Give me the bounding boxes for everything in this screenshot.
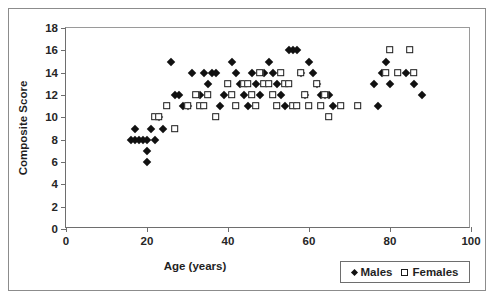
data-point-male bbox=[151, 135, 159, 143]
legend-entry-males: Males bbox=[352, 266, 393, 278]
data-point-female bbox=[172, 125, 179, 132]
x-tick-label: 0 bbox=[63, 235, 69, 247]
legend-label-females: Females bbox=[412, 266, 458, 278]
data-point-female bbox=[321, 91, 328, 98]
data-point-male bbox=[143, 158, 151, 166]
data-point-female bbox=[204, 91, 211, 98]
data-point-male bbox=[175, 91, 183, 99]
data-point-female bbox=[313, 80, 320, 87]
data-point-female bbox=[192, 91, 199, 98]
data-point-female bbox=[354, 102, 361, 109]
data-point-male bbox=[252, 80, 260, 88]
data-point-male bbox=[187, 68, 195, 76]
data-point-male bbox=[204, 80, 212, 88]
x-tick bbox=[471, 227, 472, 232]
x-tick-label: 60 bbox=[303, 235, 316, 247]
data-point-female bbox=[253, 102, 260, 109]
x-tick-label: 80 bbox=[384, 235, 397, 247]
x-tick bbox=[228, 227, 229, 232]
data-point-female bbox=[386, 47, 393, 54]
data-point-female bbox=[244, 80, 251, 87]
data-point-female bbox=[394, 69, 401, 76]
y-tick-label: 8 bbox=[52, 134, 58, 146]
data-point-male bbox=[159, 124, 167, 132]
data-point-male bbox=[276, 91, 284, 99]
x-tick bbox=[309, 227, 310, 232]
y-axis-title-label: Composite Score bbox=[17, 80, 29, 175]
data-point-male bbox=[370, 80, 378, 88]
data-point-male bbox=[410, 80, 418, 88]
data-point-female bbox=[382, 69, 389, 76]
data-point-male bbox=[386, 80, 394, 88]
data-point-female bbox=[155, 114, 162, 121]
data-point-female bbox=[297, 69, 304, 76]
data-point-male bbox=[268, 68, 276, 76]
data-point-female bbox=[338, 102, 345, 109]
data-point-female bbox=[317, 102, 324, 109]
data-point-female bbox=[293, 102, 300, 109]
y-tick-label: 18 bbox=[45, 22, 58, 34]
data-point-female bbox=[184, 102, 191, 109]
y-tick-label: 10 bbox=[45, 111, 58, 123]
data-point-female bbox=[257, 69, 264, 76]
data-point-male bbox=[264, 57, 272, 65]
scatter-plot-figure: Composite Score 024681012141618 02040608… bbox=[0, 0, 496, 301]
data-point-female bbox=[277, 69, 284, 76]
y-tick-label: 4 bbox=[52, 178, 58, 190]
data-point-female bbox=[269, 91, 276, 98]
data-point-female bbox=[410, 69, 417, 76]
data-point-male bbox=[272, 80, 280, 88]
data-point-female bbox=[301, 91, 308, 98]
x-tick-label: 100 bbox=[461, 235, 480, 247]
data-point-male bbox=[244, 102, 252, 110]
data-point-male bbox=[374, 102, 382, 110]
data-point-male bbox=[131, 124, 139, 132]
data-point-female bbox=[200, 102, 207, 109]
x-tick-label: 20 bbox=[141, 235, 154, 247]
y-tick-label: 6 bbox=[52, 156, 58, 168]
y-tick-label: 14 bbox=[45, 67, 58, 79]
data-point-male bbox=[240, 91, 248, 99]
data-point-female bbox=[305, 102, 312, 109]
data-point-male bbox=[418, 91, 426, 99]
filled-diamond-icon bbox=[350, 268, 357, 275]
data-point-male bbox=[402, 68, 410, 76]
data-point-female bbox=[228, 91, 235, 98]
y-tick-label: 16 bbox=[45, 44, 58, 56]
data-point-female bbox=[163, 102, 170, 109]
data-point-female bbox=[232, 102, 239, 109]
data-point-male bbox=[382, 57, 390, 65]
data-point-male bbox=[280, 102, 288, 110]
x-tick bbox=[66, 227, 67, 232]
y-axis-title: Composite Score bbox=[14, 27, 32, 228]
data-point-female bbox=[265, 80, 272, 87]
data-point-male bbox=[220, 91, 228, 99]
chart-legend: Males Females bbox=[340, 261, 470, 283]
y-tick-label: 12 bbox=[45, 89, 58, 101]
data-point-female bbox=[212, 114, 219, 121]
data-point-male bbox=[216, 102, 224, 110]
x-tick bbox=[390, 227, 391, 232]
data-point-male bbox=[228, 57, 236, 65]
legend-entry-females: Females bbox=[401, 266, 458, 278]
data-point-male bbox=[143, 147, 151, 155]
open-square-icon bbox=[401, 269, 408, 276]
data-point-male bbox=[256, 91, 264, 99]
data-point-male bbox=[309, 68, 317, 76]
data-point-female bbox=[273, 102, 280, 109]
data-point-female bbox=[248, 91, 255, 98]
x-tick-label: 40 bbox=[222, 235, 235, 247]
x-tick bbox=[147, 227, 148, 232]
data-point-male bbox=[147, 124, 155, 132]
data-points-layer bbox=[66, 28, 469, 227]
data-point-male bbox=[232, 68, 240, 76]
data-point-female bbox=[406, 47, 413, 54]
data-point-male bbox=[305, 57, 313, 65]
data-point-female bbox=[285, 80, 292, 87]
data-point-male bbox=[248, 68, 256, 76]
data-point-male bbox=[167, 57, 175, 65]
plot-area: 024681012141618 020406080100 bbox=[65, 27, 470, 228]
y-tick-label: 2 bbox=[52, 201, 58, 213]
data-point-male bbox=[329, 102, 337, 110]
data-point-female bbox=[224, 80, 231, 87]
